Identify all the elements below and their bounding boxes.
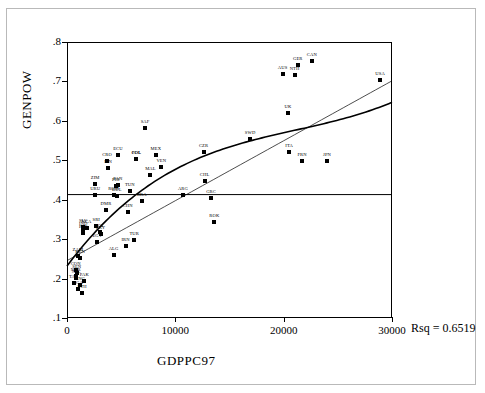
y-tick-label: .8 bbox=[37, 36, 61, 47]
data-point-label: ZIM bbox=[91, 176, 100, 181]
data-point bbox=[115, 194, 119, 198]
x-tick bbox=[392, 317, 393, 322]
data-point-label: JPN bbox=[323, 154, 331, 159]
data-point-label: UK bbox=[285, 106, 292, 111]
x-tick-label: 10000 bbox=[145, 325, 205, 336]
data-point bbox=[80, 291, 84, 295]
data-point-label: SWD bbox=[245, 131, 256, 136]
data-point-label: URU bbox=[90, 187, 100, 192]
data-point-label: MEX bbox=[151, 148, 162, 153]
data-point bbox=[248, 137, 252, 141]
data-point bbox=[154, 153, 158, 157]
data-point-label: FIN bbox=[104, 160, 112, 165]
data-point-label: FRN bbox=[297, 154, 306, 159]
data-point bbox=[112, 253, 116, 257]
data-point bbox=[287, 150, 291, 154]
data-point bbox=[300, 159, 304, 163]
figure-border: GENPOW GDPPC97 Rsq = 0.6519 .1.2.3.4.5.6… bbox=[6, 8, 476, 385]
data-point bbox=[104, 208, 108, 212]
y-tick-label: .2 bbox=[37, 273, 61, 284]
data-point bbox=[203, 179, 207, 183]
data-point bbox=[293, 73, 297, 77]
data-point bbox=[281, 72, 285, 76]
data-point bbox=[134, 157, 138, 161]
data-point-label: BRA bbox=[137, 193, 147, 198]
x-tick-label: 0 bbox=[37, 325, 97, 336]
data-point bbox=[81, 231, 85, 235]
data-point bbox=[116, 153, 120, 157]
data-point bbox=[148, 173, 152, 177]
data-point bbox=[132, 238, 136, 242]
data-point-label: TUN bbox=[125, 183, 135, 188]
data-point-label: SRI bbox=[93, 218, 100, 223]
data-point bbox=[106, 166, 110, 170]
data-point-label: CHL bbox=[200, 174, 210, 179]
data-point bbox=[209, 196, 213, 200]
data-point bbox=[325, 159, 329, 163]
data-point-label: USA bbox=[375, 73, 385, 78]
data-point-label: POL bbox=[132, 151, 141, 156]
data-point-label: IRN bbox=[121, 239, 129, 244]
y-tick-label: .4 bbox=[37, 194, 61, 205]
data-point-label: TUR bbox=[129, 233, 139, 238]
x-axis-label: GDPPC97 bbox=[157, 353, 215, 369]
data-point-label: CHN bbox=[123, 204, 133, 209]
data-point-label: MAL bbox=[145, 168, 156, 173]
data-point-label: PER bbox=[79, 225, 88, 230]
data-point bbox=[159, 165, 163, 169]
data-point bbox=[93, 193, 97, 197]
linear-fit-line bbox=[67, 81, 392, 261]
data-point-label: CAN bbox=[307, 53, 317, 58]
x-tick-label: 20000 bbox=[254, 325, 314, 336]
y-axis-label: GENPOW bbox=[19, 70, 35, 129]
data-point bbox=[78, 256, 82, 260]
data-point bbox=[310, 59, 314, 63]
plot-area: .1.2.3.4.5.6.7.8 0100002000030000 GERCAN… bbox=[67, 42, 392, 318]
data-point bbox=[143, 126, 147, 130]
x-tick-label: 30000 bbox=[362, 325, 422, 336]
y-tick-label: .5 bbox=[37, 154, 61, 165]
data-point bbox=[95, 240, 99, 244]
data-point bbox=[181, 193, 185, 197]
data-point-label: ROK bbox=[209, 215, 219, 220]
data-point-label: ITA bbox=[285, 144, 293, 149]
data-point-label: PHI bbox=[112, 178, 120, 183]
data-point bbox=[212, 220, 216, 224]
data-point bbox=[378, 78, 382, 82]
data-point-label: ARG bbox=[178, 187, 188, 192]
data-point-label: NTH bbox=[290, 68, 300, 73]
data-point-label: CZR bbox=[199, 145, 208, 150]
data-point-label: ETH bbox=[78, 286, 87, 291]
data-point-label: PRY bbox=[96, 226, 105, 231]
data-point-label: KEN bbox=[75, 251, 85, 256]
data-point bbox=[124, 244, 128, 248]
data-point-label: VEN bbox=[156, 159, 166, 164]
data-point-label: ALG bbox=[109, 247, 119, 252]
data-point bbox=[202, 150, 206, 154]
data-point-label: SAF bbox=[141, 120, 150, 125]
data-point bbox=[126, 210, 130, 214]
data-point bbox=[286, 111, 290, 115]
data-point-label: AUS bbox=[278, 67, 288, 72]
data-point bbox=[140, 199, 144, 203]
data-point-label: EGY bbox=[92, 235, 102, 240]
y-tick-label: .7 bbox=[37, 75, 61, 86]
data-point-label: GRC bbox=[206, 190, 216, 195]
y-tick-label: .3 bbox=[37, 233, 61, 244]
data-point-label: DMR bbox=[101, 202, 112, 207]
data-point-label: CRO bbox=[102, 154, 112, 159]
data-point bbox=[128, 189, 132, 193]
data-point-label: GER bbox=[293, 57, 303, 62]
data-point-label: ECU bbox=[113, 148, 123, 153]
y-tick-label: .6 bbox=[37, 115, 61, 126]
data-point-label: BUL bbox=[112, 188, 122, 193]
y-tick-label: .1 bbox=[37, 312, 61, 323]
